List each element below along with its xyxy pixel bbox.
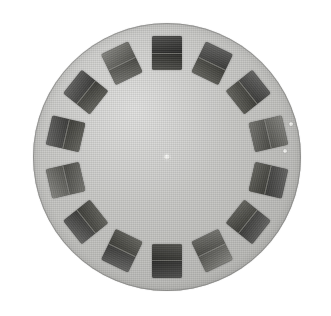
reel-slide-1 <box>152 36 182 70</box>
reel-slide-6 <box>226 200 271 245</box>
reel-slide-13 <box>63 70 108 115</box>
reel-slide-11 <box>46 162 86 199</box>
reel-slide-5 <box>248 162 288 199</box>
reel-slide-14 <box>101 41 143 85</box>
reel-slide-2 <box>191 41 233 85</box>
reel-slide-8 <box>152 244 182 278</box>
index-notch-1 <box>289 122 293 126</box>
reel-slide-4 <box>248 115 288 152</box>
reel-slide-3 <box>226 70 271 115</box>
slide-frame-right <box>152 53 182 71</box>
scene-title: View-Master stereoscopic reel <box>0 21 1 22</box>
reel-slide-10 <box>63 200 108 245</box>
picture-reel-disc <box>33 23 301 291</box>
slide-frame-right <box>152 244 182 262</box>
scene-description: A circular light-gray cardboard picture … <box>0 16 1 17</box>
center-hub <box>164 154 170 160</box>
reel-slide-7 <box>191 229 233 273</box>
slide-frame-left <box>152 36 182 53</box>
reel-slide-9 <box>101 229 143 273</box>
reel-slide-12 <box>46 115 86 152</box>
image-canvas: View-Master stereoscopic reel A circular… <box>0 0 331 316</box>
slide-frame-left <box>152 262 182 279</box>
index-notch-2 <box>283 149 287 153</box>
